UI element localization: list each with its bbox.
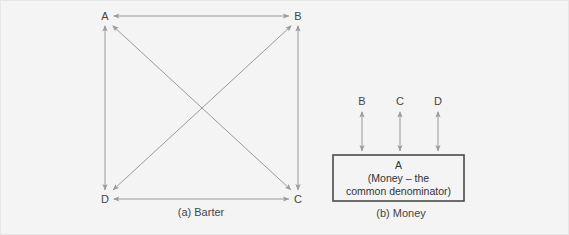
node-label-a-C: C [294, 193, 302, 205]
node-label-b-B: B [358, 95, 365, 107]
figure-canvas: A B D C (a) Barter B C D [0, 0, 569, 235]
node-label-a-D: D [101, 193, 109, 205]
money-box-line-1: A [395, 159, 402, 171]
node-label-a-B: B [294, 10, 301, 22]
node-label-a-A: A [101, 10, 109, 22]
panel-a-barter: A B D C (a) Barter [101, 10, 302, 218]
money-box-line-2: (Money – the [368, 172, 429, 184]
panel-a-caption: (a) Barter [178, 206, 225, 218]
node-label-b-C: C [396, 95, 404, 107]
panel-b-caption: (b) Money [376, 207, 426, 219]
panel-b-money: B C D A (Money – the common denominator)… [333, 95, 464, 219]
diagram-svg: A B D C (a) Barter B C D [1, 1, 569, 235]
node-label-b-D: D [434, 95, 442, 107]
money-box-line-3: common denominator) [346, 185, 451, 197]
